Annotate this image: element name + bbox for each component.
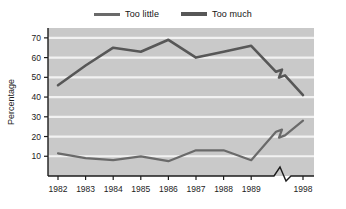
line-chart: Too little Too much 10203040506070 19821… bbox=[0, 0, 346, 209]
x-tick-label-1998: 1998 bbox=[294, 184, 313, 194]
y-axis-ticks-group: 10203040506070 bbox=[32, 33, 48, 161]
x-tick-label-1985: 1985 bbox=[131, 184, 150, 194]
x-tick-label-1986: 1986 bbox=[159, 184, 178, 194]
x-tick-label-1989: 1989 bbox=[242, 184, 261, 194]
y-tick-label-40: 40 bbox=[32, 92, 42, 102]
legend-label-too-much: Too much bbox=[212, 9, 252, 19]
x-tick-label-1982: 1982 bbox=[49, 184, 68, 194]
y-tick-label-70: 70 bbox=[32, 33, 42, 43]
chart-canvas: 10203040506070 1982198319841985198619871… bbox=[0, 24, 346, 209]
y-tick-label-20: 20 bbox=[32, 132, 42, 142]
x-tick-label-1984: 1984 bbox=[104, 184, 123, 194]
x-tick-label-1988: 1988 bbox=[214, 184, 233, 194]
x-axis-ticks-group: 198219831984198519861987198819891998 bbox=[49, 176, 313, 194]
y-tick-label-60: 60 bbox=[32, 53, 42, 63]
plot-background-group bbox=[48, 28, 314, 176]
y-tick-label-50: 50 bbox=[32, 72, 42, 82]
chart-legend: Too little Too much bbox=[0, 4, 346, 24]
y-tick-label-30: 30 bbox=[32, 112, 42, 122]
y-tick-label-10: 10 bbox=[32, 151, 42, 161]
legend-label-too-little: Too little bbox=[125, 9, 159, 19]
x-tick-label-1987: 1987 bbox=[187, 184, 206, 194]
legend-entry-too-little[interactable]: Too little bbox=[94, 9, 159, 19]
y-axis-title: Percentage bbox=[6, 79, 16, 125]
legend-entry-too-much[interactable]: Too much bbox=[181, 9, 252, 19]
plot-area-wrapper: 10203040506070 1982198319841985198619871… bbox=[0, 24, 346, 209]
legend-swatch-too-little bbox=[94, 13, 120, 16]
plot-background bbox=[48, 28, 314, 176]
x-tick-label-1983: 1983 bbox=[76, 184, 95, 194]
legend-swatch-too-much bbox=[181, 12, 207, 16]
